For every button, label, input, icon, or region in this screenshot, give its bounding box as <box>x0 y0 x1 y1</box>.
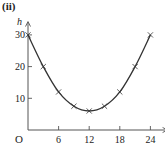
x-tick-label: 12 <box>84 134 94 145</box>
y-tick-label: 20 <box>15 61 25 72</box>
y-tick-label: 10 <box>15 93 25 104</box>
parabola-chart: 6121824102030O <box>0 0 165 148</box>
cross-marker-icon <box>102 104 107 109</box>
cross-marker-icon <box>148 32 153 37</box>
cross-marker-icon <box>117 89 122 94</box>
cross-marker-icon <box>41 64 46 69</box>
y-tick-label: 30 <box>15 29 25 40</box>
cross-marker-icon <box>133 64 138 69</box>
x-tick-label: 24 <box>145 134 155 145</box>
cross-marker-icon <box>71 104 76 109</box>
x-tick-label: 18 <box>115 134 125 145</box>
cross-marker-icon <box>56 89 61 94</box>
curve-line <box>28 35 150 111</box>
origin-label: O <box>15 133 23 145</box>
x-tick-label: 6 <box>56 134 61 145</box>
